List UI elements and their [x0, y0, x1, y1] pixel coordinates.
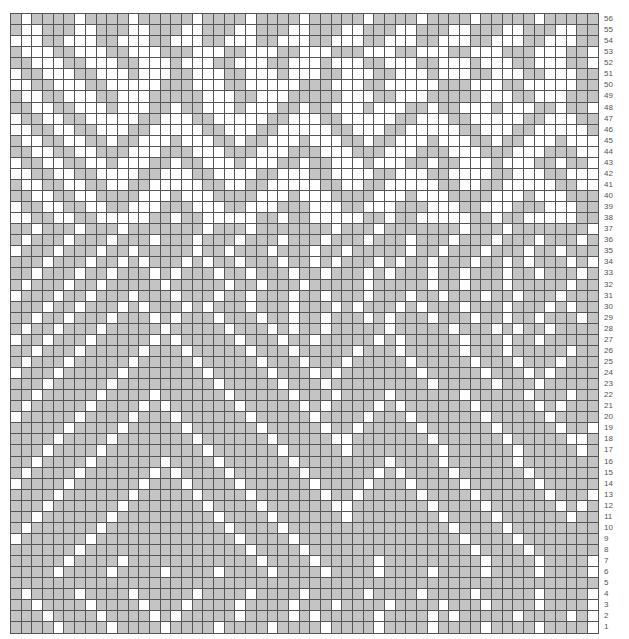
chart-cell [225, 578, 236, 589]
chart-cell [214, 578, 225, 589]
chart-cell [439, 434, 450, 445]
chart-cell [406, 501, 417, 512]
chart-cell [203, 280, 214, 291]
chart-cell [171, 357, 182, 368]
chart-cell [417, 291, 428, 302]
chart-cell [86, 346, 97, 357]
chart-cell [11, 368, 22, 379]
chart-cell [545, 512, 556, 523]
chart-cell [150, 291, 161, 302]
chart-cell [353, 257, 364, 268]
chart-cell [246, 412, 257, 423]
chart-cell [268, 578, 279, 589]
chart-cell [524, 235, 535, 246]
chart-cell [524, 556, 535, 567]
chart-cell [150, 47, 161, 58]
chart-cell [171, 180, 182, 191]
chart-cell [374, 224, 385, 235]
chart-cell [64, 235, 75, 246]
chart-cell [439, 545, 450, 556]
chart-cell [32, 578, 43, 589]
chart-cell [535, 434, 546, 445]
chart-cell [11, 468, 22, 479]
chart-cell [449, 445, 460, 456]
chart-cell [524, 490, 535, 501]
chart-cell [246, 235, 257, 246]
chart-cell [342, 80, 353, 91]
chart-cell [150, 125, 161, 136]
chart-cell [235, 224, 246, 235]
chart-cell [64, 91, 75, 102]
chart-cell [449, 169, 460, 180]
chart-cell [75, 611, 86, 622]
chart-cell [235, 103, 246, 114]
chart-cell [139, 368, 150, 379]
chart-cell [129, 523, 140, 534]
chart-cell [513, 169, 524, 180]
chart-cell [118, 457, 129, 468]
chart-cell [43, 158, 54, 169]
chart-cell [471, 25, 482, 36]
chart-cell [321, 58, 332, 69]
chart-cell [385, 36, 396, 47]
chart-cell [11, 401, 22, 412]
chart-cell [11, 622, 22, 633]
chart-cell [182, 47, 193, 58]
chart-cell [567, 412, 578, 423]
row-label: 47 [604, 113, 613, 124]
chart-cell [86, 534, 97, 545]
chart-cell [97, 291, 108, 302]
chart-cell [588, 434, 599, 445]
chart-cell [588, 235, 599, 246]
chart-cell [32, 401, 43, 412]
chart-cell [588, 412, 599, 423]
chart-cell [428, 434, 439, 445]
chart-cell [492, 346, 503, 357]
chart-cell [129, 114, 140, 125]
row-number-labels: 5655545352515049484746454443424140393837… [604, 13, 613, 633]
chart-cell [257, 202, 268, 213]
chart-cell [342, 158, 353, 169]
chart-cell [364, 147, 375, 158]
chart-cell [193, 490, 204, 501]
chart-cell [342, 335, 353, 346]
chart-cell [246, 169, 257, 180]
chart-cell [257, 313, 268, 324]
chart-cell [129, 534, 140, 545]
chart-cell [481, 302, 492, 313]
chart-cell [513, 512, 524, 523]
chart-cell [75, 246, 86, 257]
chart-cell [43, 302, 54, 313]
chart-cell [75, 69, 86, 80]
chart-cell [406, 147, 417, 158]
chart-cell [492, 125, 503, 136]
chart-cell [535, 14, 546, 25]
chart-cell [225, 47, 236, 58]
chart-cell [171, 346, 182, 357]
chart-cell [32, 235, 43, 246]
chart-cell [385, 567, 396, 578]
chart-cell [321, 512, 332, 523]
chart-cell [481, 80, 492, 91]
chart-cell [97, 423, 108, 434]
chart-cell [97, 213, 108, 224]
chart-cell [75, 114, 86, 125]
chart-cell [567, 545, 578, 556]
chart-cell [161, 324, 172, 335]
chart-cell [364, 180, 375, 191]
chart-cell [278, 224, 289, 235]
chart-cell [64, 147, 75, 158]
chart-cell [321, 412, 332, 423]
chart-cell [545, 556, 556, 567]
chart-cell [54, 246, 65, 257]
chart-cell [513, 346, 524, 357]
chart-cell [193, 80, 204, 91]
chart-cell [567, 58, 578, 69]
chart-cell [11, 534, 22, 545]
chart-cell [32, 512, 43, 523]
chart-cell [97, 457, 108, 468]
chart-cell [503, 346, 514, 357]
chart-cell [139, 69, 150, 80]
chart-cell [86, 445, 97, 456]
chart-cell [11, 246, 22, 257]
